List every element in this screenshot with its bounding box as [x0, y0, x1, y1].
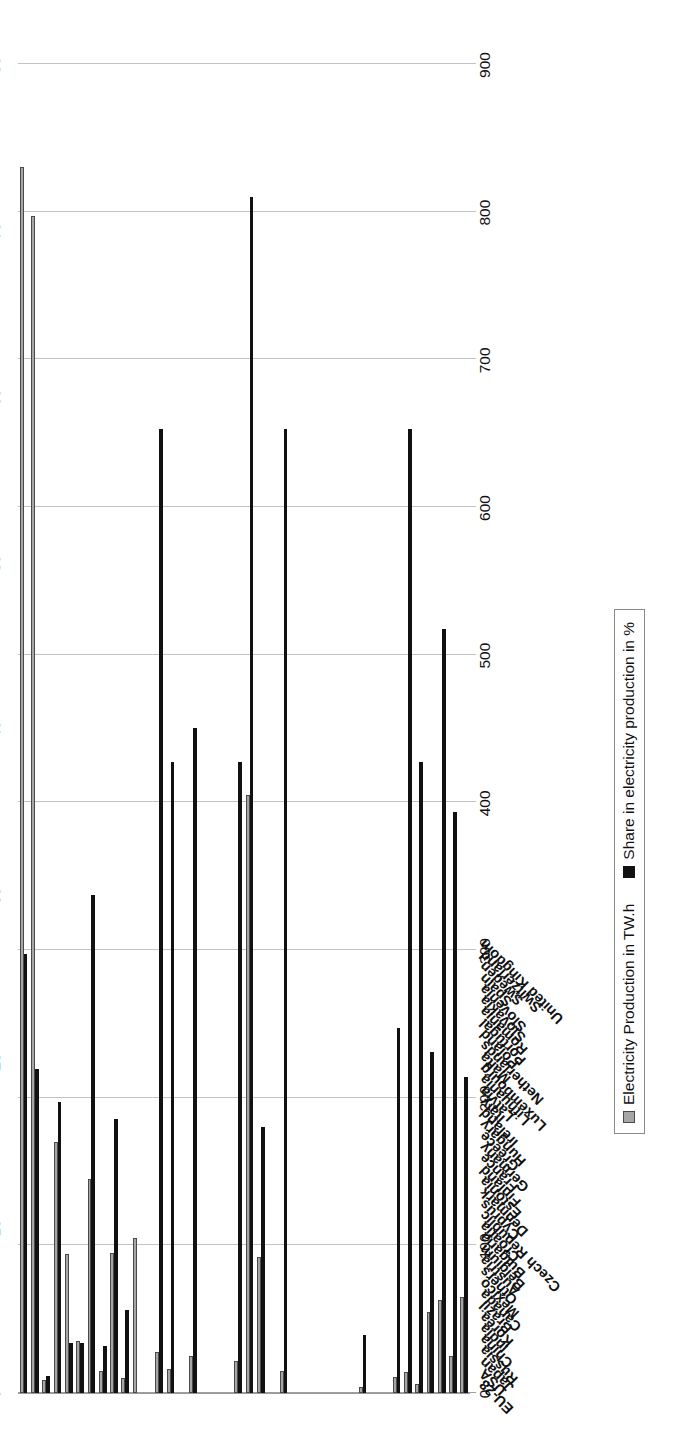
- bar-group: [29, 64, 40, 1393]
- secondary-tick-label: 60: [0, 389, 4, 406]
- bar-group: [63, 64, 74, 1393]
- bar-share: [419, 762, 423, 1393]
- bar-group: [142, 64, 153, 1393]
- chart-legend: Electricity Production in TW.h Share in …: [614, 609, 645, 1134]
- bar-group: [459, 64, 470, 1393]
- secondary-tick-label: 40: [0, 721, 4, 738]
- bar-group: [165, 64, 176, 1393]
- secondary-tick-label: 80: [0, 56, 4, 73]
- bar-group: [131, 64, 142, 1393]
- bar-group: [346, 64, 357, 1393]
- bar-group: [368, 64, 379, 1393]
- bar-share: [91, 895, 95, 1393]
- bar-group: [289, 64, 300, 1393]
- bar-group: [414, 64, 425, 1393]
- bar-group: [75, 64, 86, 1393]
- bar-share: [46, 1376, 50, 1393]
- bar-share: [284, 429, 288, 1393]
- plot-area: [18, 64, 470, 1394]
- bar-group: [380, 64, 391, 1393]
- bar-share: [442, 629, 446, 1393]
- bar-share: [397, 1028, 401, 1393]
- bar-group: [425, 64, 436, 1393]
- nuclear-electricity-bar-chart: 01020304050607080 0100200300400500600700…: [0, 0, 682, 1450]
- bar-share: [114, 1119, 118, 1393]
- bar-group: [233, 64, 244, 1393]
- bar-share: [125, 1310, 129, 1393]
- bar-group: [18, 64, 29, 1393]
- bar-share: [24, 954, 28, 1393]
- bar-share: [453, 812, 457, 1393]
- bar-share: [193, 729, 197, 1394]
- legend-entry-share: Share in electricity production in %: [620, 622, 638, 878]
- bar-share: [69, 1343, 73, 1393]
- bar-share: [35, 1069, 39, 1393]
- bar-group: [312, 64, 323, 1393]
- chart-rotation-wrapper: 01020304050607080 0100200300400500600700…: [0, 0, 682, 1450]
- legend-swatch-share-icon: [623, 866, 635, 878]
- bar-group: [97, 64, 108, 1393]
- bar-group: [199, 64, 210, 1393]
- legend-swatch-twh-icon: [623, 1111, 635, 1123]
- bar-group: [244, 64, 255, 1393]
- legend-label-twh: Electricity Production in TW.h: [620, 904, 638, 1105]
- bar-group: [323, 64, 334, 1393]
- bar-group: [334, 64, 345, 1393]
- bar-share: [238, 762, 242, 1393]
- secondary-tick-label: 10: [0, 1219, 4, 1236]
- bar-group: [447, 64, 458, 1393]
- bar-group: [255, 64, 266, 1393]
- bar-share: [103, 1347, 107, 1394]
- bar-share: [250, 197, 254, 1393]
- secondary-tick-label: 50: [0, 555, 4, 572]
- bar-group: [357, 64, 368, 1393]
- bar-group: [52, 64, 63, 1393]
- bar-group: [108, 64, 119, 1393]
- bar-group: [221, 64, 232, 1393]
- bar-group: [41, 64, 52, 1393]
- bar-group: [210, 64, 221, 1393]
- bar-group: [86, 64, 97, 1393]
- bar-group: [267, 64, 278, 1393]
- bar-share: [261, 1127, 265, 1393]
- bar-group: [301, 64, 312, 1393]
- bar-twh: [133, 1238, 137, 1393]
- bar-share: [464, 1077, 468, 1393]
- secondary-tick-label: 70: [0, 223, 4, 240]
- bar-share: [58, 1102, 62, 1393]
- bar-share: [363, 1335, 367, 1393]
- secondary-tick-label: 30: [0, 887, 4, 904]
- bar-share: [80, 1343, 84, 1393]
- bar-share: [430, 1052, 434, 1393]
- bar-group: [188, 64, 199, 1393]
- bar-group: [176, 64, 187, 1393]
- bar-share: [171, 762, 175, 1393]
- bar-group: [120, 64, 131, 1393]
- bar-share: [159, 429, 163, 1393]
- category-axis-labels: EU-28USAJapanRussiaChinaIndiaKoreaBrazil…: [472, 64, 592, 1394]
- bar-group: [402, 64, 413, 1393]
- secondary-tick-label: 20: [0, 1053, 4, 1070]
- secondary-tick-label: 0: [0, 1390, 4, 1399]
- legend-entry-twh: Electricity Production in TW.h: [620, 904, 638, 1123]
- bar-group: [278, 64, 289, 1393]
- bar-share: [408, 429, 412, 1393]
- bar-group: [436, 64, 447, 1393]
- bar-group: [391, 64, 402, 1393]
- secondary-axis-ticks: 01020304050607080: [0, 64, 14, 1394]
- bar-group: [154, 64, 165, 1393]
- legend-label-share: Share in electricity production in %: [620, 622, 638, 860]
